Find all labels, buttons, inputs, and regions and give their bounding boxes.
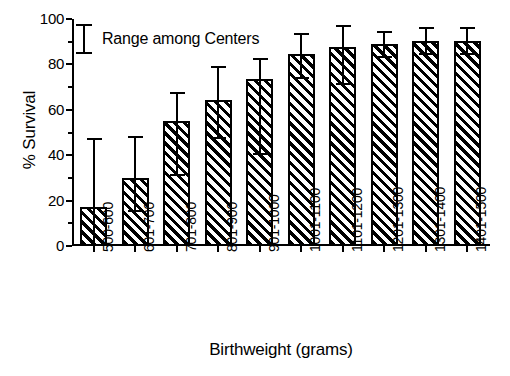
error-bar-cap-bottom — [419, 53, 434, 55]
x-tick-label: 901-1000 — [266, 194, 282, 252]
error-bar-line — [217, 68, 219, 140]
error-bar-cap-top — [211, 66, 226, 68]
x-tick-mark — [466, 246, 468, 252]
error-bar-line — [134, 138, 136, 212]
x-tick-label: 500-600 — [100, 202, 116, 252]
x-tick-mark — [383, 246, 385, 252]
x-tick-label: 801-900 — [224, 202, 240, 252]
y-tick-minor — [68, 41, 72, 43]
y-tick-mark — [66, 109, 72, 111]
error-bar-icon — [76, 24, 92, 54]
chart-figure: % Survival 020406080100 500-600601-70070… — [0, 0, 510, 376]
x-tick-label: 1001-1100 — [307, 188, 323, 252]
x-tick-mark — [217, 246, 219, 252]
x-axis-title: Birthweight (grams) — [72, 340, 490, 360]
x-tick-label: 1201-1300 — [390, 187, 406, 252]
error-bar-line — [93, 140, 95, 246]
y-tick-mark — [66, 18, 72, 20]
x-tick-label: 1101-1200 — [349, 188, 365, 252]
error-bar-line — [466, 29, 468, 55]
y-tick-label: 80 — [34, 56, 64, 71]
y-tick-mark — [66, 200, 72, 202]
x-tick-mark — [425, 246, 427, 252]
error-bar-cap-top — [419, 27, 434, 29]
y-tick-minor — [68, 86, 72, 88]
y-tick-label: 20 — [34, 193, 64, 208]
x-tick-mark — [93, 246, 95, 252]
y-tick-label: 60 — [34, 102, 64, 117]
error-bar-cap-bottom — [294, 77, 309, 79]
error-bar-cap-bottom — [253, 153, 268, 155]
error-bar-cap-bottom — [336, 83, 351, 85]
legend-label: Range among Centers — [102, 30, 259, 48]
y-tick-mark — [66, 154, 72, 156]
error-bar-cap-bottom — [170, 174, 185, 176]
x-tick-mark — [300, 246, 302, 252]
y-tick-mark — [66, 245, 72, 247]
x-tick-mark — [259, 246, 261, 252]
x-tick-label: 1301-1400 — [432, 187, 448, 252]
error-bar-cap-top — [128, 136, 143, 138]
error-bar-line — [176, 94, 178, 176]
error-bar-cap-bottom — [460, 53, 475, 55]
error-bar-line — [300, 35, 302, 79]
error-bar-cap-top — [460, 27, 475, 29]
x-tick-mark — [134, 246, 136, 252]
y-tick-label: 100 — [34, 11, 64, 26]
y-tick-label: 0 — [34, 238, 64, 253]
y-tick-minor — [68, 177, 72, 179]
x-tick-label: 701-800 — [183, 202, 199, 252]
y-tick-minor — [68, 132, 72, 134]
x-tick-mark — [342, 246, 344, 252]
error-bar-cap-bottom — [377, 56, 392, 58]
y-tick-label: 40 — [34, 147, 64, 162]
error-bar-cap-top — [170, 92, 185, 94]
y-tick-minor — [68, 222, 72, 224]
x-tick-label: 601-700 — [141, 202, 157, 252]
error-bar-cap-top — [253, 58, 268, 60]
error-bar-line — [342, 27, 344, 85]
y-tick-mark — [66, 63, 72, 65]
x-tick-mark — [176, 246, 178, 252]
error-bar-cap-top — [336, 25, 351, 27]
error-bar-line — [425, 29, 427, 55]
error-bar-line — [383, 33, 385, 58]
error-bar-cap-top — [377, 31, 392, 33]
error-bar-cap-bottom — [211, 137, 226, 139]
x-tick-label: 1401-1500 — [473, 187, 489, 252]
error-bar-cap-top — [294, 33, 309, 35]
error-bar-line — [259, 60, 261, 155]
error-bar-cap-top — [87, 138, 102, 140]
y-axis-tick-labels: 020406080100 — [20, 0, 64, 260]
